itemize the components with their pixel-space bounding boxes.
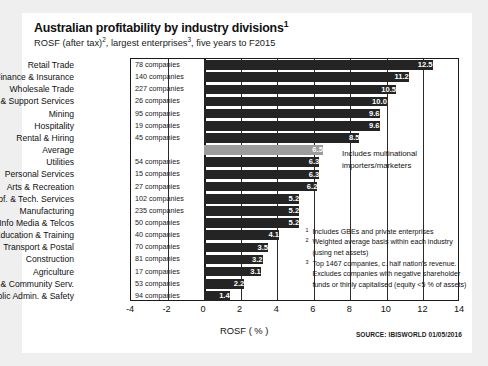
footnote-line: funds or thinly capitalised (equity <5 %… (305, 280, 466, 291)
company-count-label: 78 companies (135, 59, 205, 71)
company-count-label: 140 companies (135, 71, 205, 83)
company-count-label: 45 companies (135, 132, 205, 144)
chart-figure: Australian profitability by industry div… (0, 0, 488, 366)
category-label: Retail Trade (0, 59, 74, 71)
annotation-multinational: Includes multinational importers/markete… (342, 148, 417, 172)
footnote-text: Top 1467 companies, c. half nation's rev… (312, 260, 456, 268)
footnote-line: (using net assets) (305, 248, 466, 259)
category-label: Health & Community Serv. (0, 278, 74, 290)
chart-row: Public Admin. & Safety94 companies1.4 (131, 290, 458, 302)
footnote-text: Includes GBEs and private enterprises (312, 228, 433, 236)
x-axis-tick-label: 10 (374, 304, 398, 314)
subtitle-part-a: ROSF (after tax) (34, 38, 102, 48)
category-label: Transport & Postal (0, 241, 74, 253)
chart-row: Finance & Insurance140 companies11.2 (131, 71, 458, 83)
chart-card: Australian profitability by industry div… (22, 13, 472, 353)
x-axis-tick-label: 6 (301, 304, 325, 314)
page-title: Australian profitability by industry div… (34, 21, 288, 35)
company-count-label: 53 companies (135, 278, 205, 290)
bar-value-label: 2.2 (204, 279, 247, 289)
category-label: Finance & Insurance (0, 71, 74, 83)
category-label: Construction (0, 253, 74, 265)
chart-row: Wholesale Trade227 companies10.5 (131, 83, 458, 95)
bar-value-label: 4.1 (204, 230, 282, 240)
chart-row: Prof. & Tech. Services102 companies5.2 (131, 193, 458, 205)
footnote-line: 3Top 1467 companies, c. half nation's re… (305, 259, 466, 270)
annotation-line-2: importers/marketers (342, 160, 417, 172)
bar-value-label: 6.3 (204, 170, 322, 180)
x-axis-tick-label: -4 (118, 304, 142, 314)
source-credit: SOURCE: IBISWORLD 01/05/2016 (356, 331, 462, 338)
x-axis-tick-label: 0 (191, 304, 215, 314)
company-count-label: 70 companies (135, 241, 205, 253)
category-label: Mining (0, 108, 74, 120)
footnote-text: (using net assets) (312, 249, 368, 257)
bar-value-label: 9.6 (204, 121, 382, 131)
company-count-label: 227 companies (135, 83, 205, 95)
subtitle-part-b: , largest enterprises (106, 38, 188, 48)
x-axis-tick-label: 4 (264, 304, 288, 314)
footnote-line: 2Weighted average basis within each indu… (305, 237, 466, 248)
footnote-text: Excludes companies with negative shareho… (312, 270, 460, 278)
bar-value-label: 9.6 (204, 109, 382, 119)
category-label: Personal Services (0, 168, 74, 180)
category-label: Info Media & Telcos (0, 217, 74, 229)
category-label: Utilities (0, 156, 74, 168)
company-count-label: 54 companies (135, 156, 205, 168)
footnotes-block: 1Includes GBEs and private enterprises2W… (305, 227, 466, 291)
company-count-label: 15 companies (135, 168, 205, 180)
chart-row: Hospitality19 companies9.6 (131, 120, 458, 132)
footnote-marker: 2 (305, 235, 308, 246)
bar-value-label: 11.2 (204, 72, 412, 82)
bar-value-label: 6.2 (204, 182, 320, 192)
chart-row: Arts & Recreation27 companies6.2 (131, 181, 458, 193)
title-text: Australian profitability by industry div… (34, 21, 284, 35)
category-label: Hospitality (0, 120, 74, 132)
category-label: Agriculture (0, 266, 74, 278)
company-count-label: 102 companies (135, 193, 205, 205)
footnote-line: 1Includes GBEs and private enterprises (305, 227, 466, 238)
category-label: Admin. & Support Services (0, 95, 74, 107)
footnote-text: Weighted average basis within each indus… (312, 238, 452, 246)
bar-value-label: 10.5 (204, 85, 399, 95)
x-axis-tick-label: 12 (410, 304, 434, 314)
category-label: Rental & Hiring (0, 132, 74, 144)
company-count-label: 40 companies (135, 229, 205, 241)
bar-value-label: 12.5 (204, 60, 435, 70)
category-label: Prof. & Tech. Services (0, 193, 74, 205)
category-label: Manufacturing (0, 205, 74, 217)
bar-value-label: 5.2 (204, 194, 302, 204)
x-axis-tick-label: -2 (155, 304, 179, 314)
company-count-label: 95 companies (135, 108, 205, 120)
company-count-label: 235 companies (135, 205, 205, 217)
company-count-label: 17 companies (135, 266, 205, 278)
x-axis-label: ROSF ( % ) (220, 325, 268, 336)
subtitle-part-c: , five years to F2015 (191, 38, 275, 48)
annotation-line-1: Includes multinational (342, 148, 417, 160)
category-label: Average (0, 144, 74, 156)
bar-value-label: 3.2 (204, 255, 265, 265)
chart-row: Manufacturing235 companies5.2 (131, 205, 458, 217)
company-count-label: 94 companies (135, 290, 205, 302)
category-label: Education & Training (0, 229, 74, 241)
category-label: Public Admin. & Safety (0, 290, 74, 302)
company-count-label: 27 companies (135, 181, 205, 193)
x-axis-tick-label: 2 (228, 304, 252, 314)
footnote-marker: 3 (305, 257, 308, 268)
bar-value-label: 3.5 (204, 243, 271, 253)
category-label: Arts & Recreation (0, 181, 74, 193)
x-axis-tick-label: 14 (447, 304, 471, 314)
bar-value-label: 3.1 (204, 267, 264, 277)
footnote-marker: 1 (305, 225, 308, 236)
bar-value-label: 5.2 (204, 206, 302, 216)
title-footnote-marker: 1 (284, 19, 289, 29)
company-count-label: 19 companies (135, 120, 205, 132)
bar-value-label: 5.2 (204, 218, 302, 228)
x-axis-tick-label: 8 (337, 304, 361, 314)
bar-value-label: 6.3 (204, 157, 322, 167)
bar-value-label: 6.5 (204, 145, 326, 155)
company-count-label: 50 companies (135, 217, 205, 229)
bar-value-label: 8.5 (204, 133, 362, 143)
page-subtitle: ROSF (after tax)2, largest enterprises3,… (34, 38, 275, 48)
bar-value-label: 10.0 (204, 97, 390, 107)
